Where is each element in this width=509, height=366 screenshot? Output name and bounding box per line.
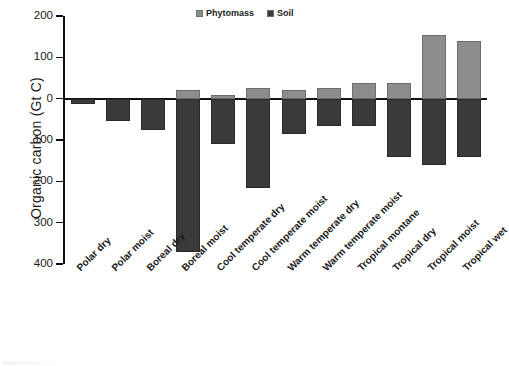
bar-group	[176, 16, 200, 264]
y-axis-tick-label: 0	[47, 93, 53, 105]
y-axis-tick-label: 400	[34, 258, 53, 270]
y-axis-tick-label: 200	[34, 10, 53, 22]
bar-group	[71, 16, 95, 264]
y-axis-tick-label: 100	[34, 134, 53, 146]
bar-soil	[317, 99, 341, 126]
bar-phytomass	[352, 83, 376, 99]
bar-group	[141, 16, 165, 264]
bar-group	[422, 16, 446, 264]
y-axis-tick: 100	[56, 57, 63, 59]
bar-phytomass	[457, 41, 481, 99]
bar-soil	[387, 99, 411, 157]
bar-phytomass	[176, 90, 200, 99]
bar-phytomass	[317, 88, 341, 98]
bottom-edge-artifact	[2, 361, 64, 365]
bar-phytomass	[422, 35, 446, 99]
y-axis-tick: 400	[56, 263, 63, 265]
y-axis-tick-label: 100	[34, 52, 53, 64]
bar-group	[106, 16, 130, 264]
y-axis-tick: 100	[56, 139, 63, 141]
bar-soil	[457, 99, 481, 157]
y-axis-tick: 200	[56, 15, 63, 17]
y-axis-tick-label: 300	[34, 217, 53, 229]
bar-series-container	[65, 16, 487, 264]
bar-soil	[246, 99, 270, 188]
bar-soil	[176, 99, 200, 252]
y-axis-tick: 300	[56, 222, 63, 224]
bar-soil	[106, 99, 130, 122]
x-axis-category-labels: Polar dryPolar moistBoreal dryBoreal moi…	[63, 266, 487, 366]
bar-soil	[422, 99, 446, 165]
bar-phytomass	[246, 88, 270, 98]
bar-soil	[71, 99, 95, 104]
plot-area: 2001000100200300400	[63, 16, 487, 264]
y-axis-tick: 200	[56, 181, 63, 183]
bar-soil	[211, 99, 235, 144]
bar-soil	[282, 99, 306, 134]
bar-soil	[352, 99, 376, 126]
bar-phytomass	[387, 83, 411, 99]
y-axis-tick: 0	[56, 98, 63, 100]
y-axis-tick-label: 200	[34, 176, 53, 188]
bar-soil	[141, 99, 165, 130]
bar-phytomass	[282, 90, 306, 98]
